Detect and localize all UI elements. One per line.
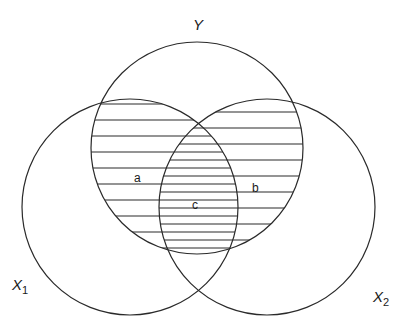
region-c-label: c <box>192 198 198 212</box>
region-b-label: b <box>252 181 259 195</box>
set-y-circle <box>91 42 303 254</box>
venn-diagram: Y X1 X2 a b c <box>0 0 401 327</box>
set-x1-circle <box>22 99 238 315</box>
set-x1-label: X1 <box>11 276 28 296</box>
region-a-label: a <box>134 171 141 185</box>
hatch-region-b-outer <box>0 112 401 304</box>
set-x2-label: X2 <box>372 288 389 308</box>
set-y-label: Y <box>193 16 204 33</box>
hatch-region-b <box>0 112 401 304</box>
